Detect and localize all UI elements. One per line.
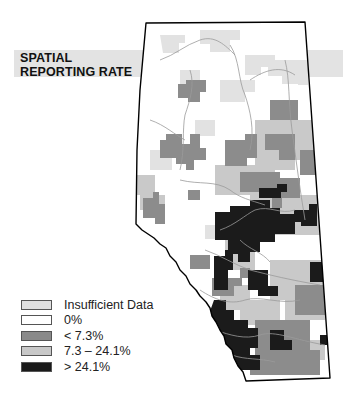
legend-label: 7.3 – 24.1%: [64, 344, 131, 358]
legend-label: > 24.1%: [64, 360, 110, 374]
legend-label: 0%: [64, 313, 82, 327]
legend-item-insufficient: Insufficient Data: [21, 297, 153, 313]
legend-label: Insufficient Data: [64, 298, 153, 312]
title-line-1: SPATIAL: [20, 51, 132, 65]
legend-label: < 7.3%: [64, 329, 103, 343]
legend-swatch: [21, 346, 52, 356]
legend-swatch: [21, 362, 52, 372]
legend-item-low: < 7.3%: [21, 328, 153, 344]
title-line-2: REPORTING RATE: [20, 65, 132, 79]
legend-item-zero: 0%: [21, 313, 153, 329]
map-title: SPATIAL REPORTING RATE: [20, 51, 132, 79]
legend-item-high: > 24.1%: [21, 359, 153, 375]
legend-swatch: [21, 315, 52, 325]
legend-item-mid: 7.3 – 24.1%: [21, 344, 153, 360]
legend-swatch: [21, 331, 52, 341]
legend-swatch: [21, 300, 52, 310]
legend: Insufficient Data 0% < 7.3% 7.3 – 24.1% …: [21, 297, 153, 375]
